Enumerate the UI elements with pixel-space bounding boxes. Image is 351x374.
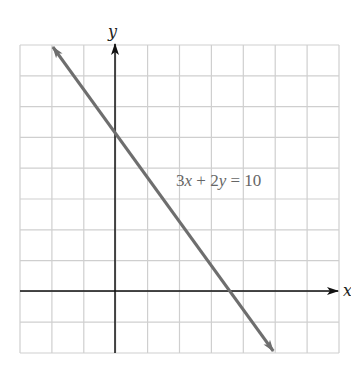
equation-label: 3x + 2y = 10 <box>176 171 261 190</box>
coordinate-plane-figure: x y 3x + 2y = 10 <box>0 0 351 374</box>
grid <box>20 45 339 353</box>
y-axis-label: y <box>107 22 118 41</box>
x-axis-label: x <box>343 281 351 300</box>
